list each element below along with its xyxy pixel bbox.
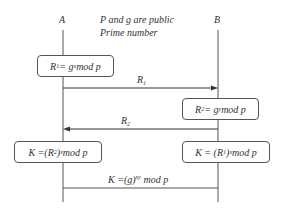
arrowhead-r1	[211, 86, 218, 91]
b-compute-box: R2 = gy mod p	[182, 98, 259, 120]
a-compute-box: R1 = gx mod p	[37, 55, 114, 77]
shared-key-label: K =(g)xy mod p	[108, 174, 168, 185]
arrowhead-r2	[63, 127, 70, 132]
party-b-label: B	[214, 14, 220, 25]
b-key-box: K = (R1)x mod p	[182, 141, 270, 163]
a-key-box: K =(R2)x mod p	[14, 141, 102, 163]
msg-r1-label: R1	[137, 74, 146, 86]
header-note-line1: P and g are public	[100, 14, 174, 25]
msg-r2-label: R2	[121, 115, 130, 127]
party-a-label: A	[59, 14, 65, 25]
header-note-line2: Prime number	[100, 27, 158, 38]
